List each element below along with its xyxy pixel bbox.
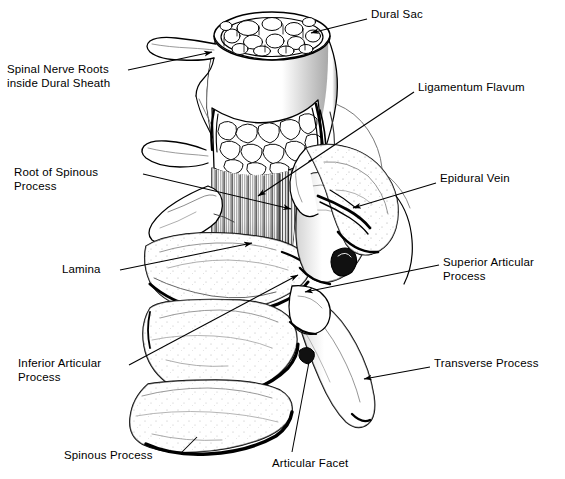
label-spinous-process: Spinous Process [64, 449, 153, 463]
leader-line-transverse-process [364, 367, 430, 379]
anatomical-illustration: Dural Sac Spinal Nerve Rootsinside Dural… [0, 0, 565, 479]
leader-line-articular-facet [292, 362, 309, 452]
label-superior-articular-process: Superior ArticularProcess [443, 256, 534, 283]
label-dural-sac: Dural Sac [371, 8, 423, 22]
label-epidural-vein: Epidural Vein [440, 172, 510, 186]
label-spinal-nerve-roots: Spinal Nerve Rootsinside Dural Sheath [7, 63, 110, 90]
label-root-of-spinous-process: Root of SpinousProcess [14, 166, 98, 193]
articular-facet-drawing [331, 248, 357, 276]
label-ligamentum-flavum: Ligamentum Flavum [418, 81, 525, 95]
spinal-nerve-root-sheaths [142, 37, 216, 167]
spinous-process-drawing [130, 380, 293, 454]
label-articular-facet: Articular Facet [272, 457, 348, 471]
label-transverse-process: Transverse Process [434, 357, 539, 371]
label-lamina: Lamina [62, 263, 101, 277]
label-inferior-articular-process: Inferior ArticularProcess [18, 357, 101, 384]
